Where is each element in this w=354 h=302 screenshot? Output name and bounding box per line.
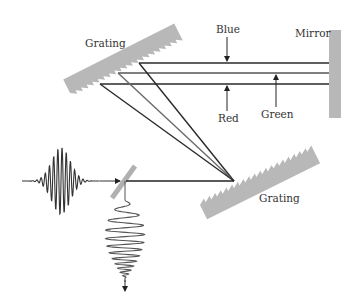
diffracted-beams [100, 63, 234, 181]
grating-top [63, 24, 183, 94]
label-red: Red [218, 112, 239, 124]
label-arrows [227, 37, 276, 111]
mirror [329, 30, 341, 118]
grating-bottom [200, 145, 320, 219]
beam-splitter [112, 166, 135, 198]
label-blue: Blue [216, 23, 240, 35]
beams-to-mirror [100, 63, 329, 84]
diffracted-green [118, 73, 234, 181]
label-grating-top: Grating [85, 37, 126, 49]
input-pulse [22, 148, 120, 214]
label-grating-bottom: Grating [259, 192, 300, 204]
label-green: Green [261, 108, 294, 120]
diagram-canvas: Grating Grating Mirror Blue Red Green [0, 0, 354, 302]
label-mirror: Mirror [295, 27, 331, 39]
